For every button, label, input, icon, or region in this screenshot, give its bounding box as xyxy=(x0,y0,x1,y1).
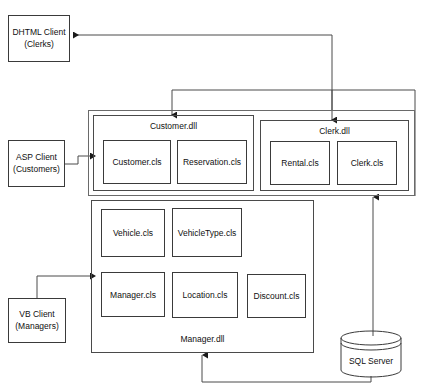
reservation-cls-box[interactable]: Reservation.cls xyxy=(177,140,247,184)
dhtml-client-label-line1: DHTML Client xyxy=(12,27,65,38)
customer-cls-box[interactable]: Customer.cls xyxy=(103,140,171,184)
connector-vb-client-to-manager-dll xyxy=(37,276,90,298)
vehicle-cls-box[interactable]: Vehicle.cls xyxy=(101,209,165,257)
asp-client-label-line2: (Customers) xyxy=(13,164,60,175)
manager-dll-label: Manager.dll xyxy=(92,334,313,344)
vb-client-label-line1: VB Client xyxy=(19,309,54,320)
vehicletype-cls-label: VehicleType.cls xyxy=(178,228,237,238)
rental-cls-box[interactable]: Rental.cls xyxy=(270,141,330,185)
clerk-cls-label: Clerk.cls xyxy=(351,158,384,168)
sql-server-cylinder[interactable]: SQL Server xyxy=(340,330,402,378)
asp-client-label-line1: ASP Client xyxy=(16,152,57,163)
connector-clerkdll-to-dhtml-client xyxy=(73,35,332,110)
manager-cls-box[interactable]: Manager.cls xyxy=(101,272,165,317)
vehicle-cls-label: Vehicle.cls xyxy=(113,228,153,238)
manager-cls-label: Manager.cls xyxy=(110,290,156,300)
cylinder-icon xyxy=(340,330,402,378)
architecture-diagram: DHTML Client (Clerks) ASP Client (Custom… xyxy=(0,0,424,392)
clerk-dll-label: Clerk.dll xyxy=(261,126,408,136)
connector-asp-client-to-customer-dll xyxy=(65,156,90,164)
customer-dll-label: Customer.dll xyxy=(94,121,253,131)
sql-server-label: SQL Server xyxy=(340,356,402,366)
location-cls-label: Location.cls xyxy=(183,290,228,300)
clerk-cls-box[interactable]: Clerk.cls xyxy=(337,141,397,185)
dhtml-client-label-line2: (Clerks) xyxy=(24,39,54,50)
reservation-cls-label: Reservation.cls xyxy=(183,157,241,167)
discount-cls-box[interactable]: Discount.cls xyxy=(247,274,306,318)
vb-client-label-line2: (Managers) xyxy=(15,321,58,332)
dhtml-client-box[interactable]: DHTML Client (Clerks) xyxy=(8,15,70,62)
vehicletype-cls-box[interactable]: VehicleType.cls xyxy=(172,208,242,257)
vb-client-box[interactable]: VB Client (Managers) xyxy=(8,298,66,343)
asp-client-box[interactable]: ASP Client (Customers) xyxy=(8,140,65,187)
rental-cls-label: Rental.cls xyxy=(281,158,318,168)
discount-cls-label: Discount.cls xyxy=(254,291,300,301)
location-cls-box[interactable]: Location.cls xyxy=(172,272,238,318)
customer-cls-label: Customer.cls xyxy=(112,157,161,167)
